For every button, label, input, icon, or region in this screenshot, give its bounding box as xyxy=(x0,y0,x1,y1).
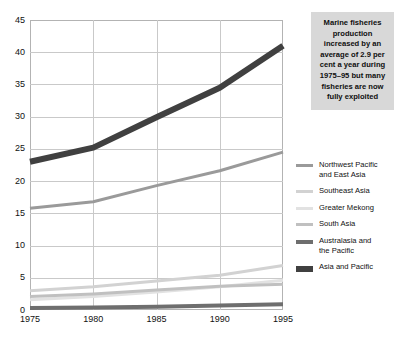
y-axis-tick-label: 0 xyxy=(0,306,25,315)
legend-swatch-icon xyxy=(296,190,313,193)
legend-item: Asia and Pacific xyxy=(296,262,400,272)
legend-swatch-icon xyxy=(296,207,313,210)
legend-swatch-icon xyxy=(296,240,313,244)
chart-series-layer xyxy=(30,20,283,310)
series-line xyxy=(30,284,283,296)
x-axis-tick-label: 1985 xyxy=(137,315,177,324)
series-line xyxy=(30,304,283,308)
chart-plot-area xyxy=(30,20,283,310)
callout-box: Marine fisheries production increased by… xyxy=(311,12,395,110)
y-axis-tick-label: 10 xyxy=(0,241,25,250)
legend-item-label: Asia and Pacific xyxy=(319,262,373,272)
y-axis-tick-label: 20 xyxy=(0,177,25,186)
chart-legend: Northwest Pacific and East AsiaSoutheast… xyxy=(296,160,400,279)
y-axis-tick-label: 45 xyxy=(0,16,25,25)
series-line xyxy=(30,266,283,291)
y-axis-tick-label: 30 xyxy=(0,112,25,121)
x-axis-tick-label: 1990 xyxy=(200,315,240,324)
y-axis-tick-label: 25 xyxy=(0,144,25,153)
series-line xyxy=(30,46,283,162)
legend-item-label: South Asia xyxy=(319,219,355,229)
x-axis-tick-label: 1980 xyxy=(73,315,113,324)
legend-item: Greater Mekong xyxy=(296,203,400,213)
legend-item: Australasia and the Pacific xyxy=(296,236,400,255)
series-line xyxy=(30,152,283,208)
legend-item-label: Southeast Asia xyxy=(319,186,370,196)
legend-item: Southeast Asia xyxy=(296,186,400,196)
x-axis-tick-label: 1975 xyxy=(10,315,50,324)
y-axis-tick-label: 35 xyxy=(0,80,25,89)
y-axis-tick-label: 40 xyxy=(0,48,25,57)
legend-item: South Asia xyxy=(296,219,400,229)
legend-item-label: Greater Mekong xyxy=(319,203,374,213)
legend-item: Northwest Pacific and East Asia xyxy=(296,160,400,179)
x-axis-tick-label: 1995 xyxy=(263,315,303,324)
legend-item-label: Northwest Pacific and East Asia xyxy=(319,160,378,179)
clipped-header-text xyxy=(36,0,236,7)
legend-swatch-icon xyxy=(296,223,313,226)
y-axis-tick-label: 15 xyxy=(0,209,25,218)
legend-swatch-icon xyxy=(296,266,313,272)
legend-item-label: Australasia and the Pacific xyxy=(319,236,371,255)
y-axis-tick-label: 5 xyxy=(0,273,25,282)
legend-swatch-icon xyxy=(296,164,313,167)
